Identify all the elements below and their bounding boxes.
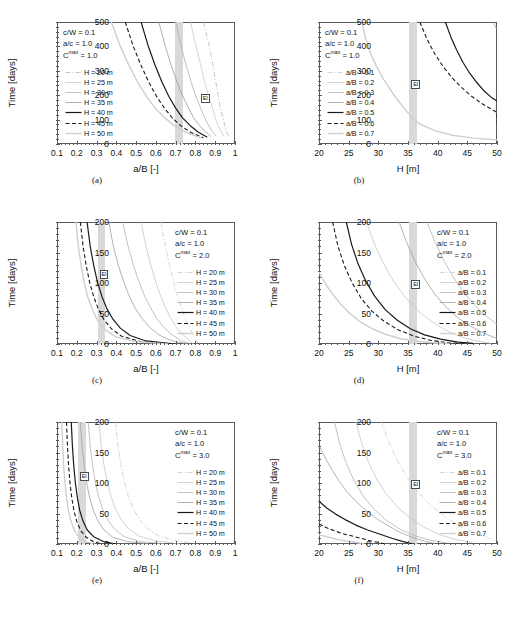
legend-item[interactable]: H = 25 m <box>177 277 225 287</box>
legend-item[interactable]: a/B = 0.3 <box>439 487 486 497</box>
x-tick-minor <box>455 543 456 546</box>
x-tick-minor <box>191 343 192 346</box>
legend-label: H = 30 m <box>196 488 225 497</box>
legend-item[interactable]: H = 45 m <box>177 318 225 328</box>
chart-panel-f: EI20253035404550050100150200H [m]Time [d… <box>261 400 523 600</box>
x-tick-label: 25 <box>344 548 353 558</box>
legend-item[interactable]: H = 20 m <box>177 267 225 277</box>
y-tick-minor <box>318 489 321 490</box>
y-tick-minor <box>56 422 59 423</box>
legend-item[interactable]: H = 30 m <box>65 87 113 97</box>
legend-item[interactable]: a/B = 0.6 <box>327 118 374 128</box>
x-tick-minor <box>73 343 74 346</box>
x-tick-label: 0.1 <box>51 548 63 558</box>
legend-item[interactable]: a/B = 0.4 <box>327 98 374 108</box>
series-curve <box>319 445 435 543</box>
legend-swatch <box>177 520 194 527</box>
x-tick-label: 0.1 <box>51 148 63 158</box>
legend-item[interactable]: a/B = 0.5 <box>439 308 486 318</box>
legend-item[interactable]: H = 25 m <box>65 77 113 87</box>
legend-swatch <box>327 130 344 137</box>
parameter-row: Cmax = 3.0 <box>437 450 472 462</box>
legend-item[interactable]: H = 50 m <box>177 528 225 538</box>
x-tick-minor <box>128 343 129 346</box>
legend-item[interactable]: H = 20 m <box>177 467 225 477</box>
x-tick-label: 0.2 <box>71 148 83 158</box>
x-tick-minor <box>203 343 204 346</box>
legend-item[interactable]: a/B = 0.7 <box>327 128 374 138</box>
legend-item[interactable]: a/B = 0.6 <box>439 318 486 328</box>
x-tick-minor <box>235 543 236 546</box>
legend-item[interactable]: a/B = 0.3 <box>439 287 486 297</box>
legend-item[interactable]: a/B = 0.3 <box>327 87 374 97</box>
x-tick-minor <box>331 343 332 346</box>
legend-item[interactable]: a/B = 0.2 <box>439 277 486 287</box>
legend-item[interactable]: a/B = 0.2 <box>327 77 374 87</box>
x-tick-minor <box>160 543 161 546</box>
legend-item[interactable]: a/B = 0.1 <box>439 267 486 277</box>
legend-label: a/B = 0.7 <box>458 529 486 538</box>
legend-item[interactable]: H = 45 m <box>65 118 113 128</box>
legend-e: H = 20 mH = 25 mH = 30 mH = 35 mH = 40 m… <box>177 467 225 538</box>
x-tick-minor <box>491 143 492 146</box>
y-tick-label: 0 <box>366 339 371 349</box>
legend-item[interactable]: a/B = 0.5 <box>327 108 374 118</box>
legend-item[interactable]: H = 50 m <box>177 328 225 338</box>
y-tick-minor <box>318 326 321 327</box>
legend-item[interactable]: H = 20 m <box>65 67 113 77</box>
y-tick-minor <box>318 277 321 278</box>
x-tick-minor <box>337 343 338 346</box>
legend-item[interactable]: a/B = 0.1 <box>439 467 486 477</box>
legend-item[interactable]: H = 35 m <box>65 98 113 108</box>
legend-item[interactable]: a/B = 0.6 <box>439 518 486 528</box>
y-tick-minor <box>56 32 59 33</box>
legend-item[interactable]: H = 30 m <box>177 487 225 497</box>
legend-label: a/B = 0.7 <box>346 129 374 138</box>
legend-swatch <box>327 89 344 96</box>
legend-item[interactable]: H = 40 m <box>65 108 113 118</box>
legend-label: H = 25 m <box>84 78 113 87</box>
chart-panel-a: EI0.10.20.30.40.50.60.70.80.910100200300… <box>0 0 261 200</box>
x-tick-minor <box>176 343 177 346</box>
x-tick-minor <box>69 143 70 146</box>
legend-item[interactable]: H = 35 m <box>177 298 225 308</box>
legend-item[interactable]: a/B = 0.4 <box>439 498 486 508</box>
legend-item[interactable]: a/B = 0.5 <box>439 508 486 518</box>
x-tick-minor <box>120 343 121 346</box>
legend-item[interactable]: a/B = 0.2 <box>439 477 486 487</box>
y-axis-title: Time [days] <box>268 459 279 508</box>
legend-item[interactable]: a/B = 0.7 <box>439 328 486 338</box>
x-tick-minor <box>148 143 149 146</box>
x-tick-minor <box>85 343 86 346</box>
ei-label: EI <box>411 80 420 89</box>
legend-item[interactable]: H = 50 m <box>65 128 113 138</box>
x-tick-minor <box>461 543 462 546</box>
legend-swatch <box>177 289 194 296</box>
x-tick-minor <box>101 143 102 146</box>
legend-label: a/B = 0.3 <box>458 488 486 497</box>
legend-item[interactable]: H = 35 m <box>177 498 225 508</box>
legend-swatch <box>65 109 82 116</box>
y-tick-label: 0 <box>366 539 371 549</box>
legend-item[interactable]: H = 40 m <box>177 508 225 518</box>
y-tick-label: 50 <box>100 309 109 319</box>
legend-swatch <box>439 269 456 276</box>
y-tick-minor <box>56 483 59 484</box>
legend-item[interactable]: H = 30 m <box>177 287 225 297</box>
legend-item[interactable]: H = 45 m <box>177 518 225 528</box>
x-tick-minor <box>485 143 486 146</box>
legend-item[interactable]: a/B = 0.7 <box>439 528 486 538</box>
x-tick-minor <box>491 543 492 546</box>
y-tick-minor <box>318 307 321 308</box>
legend-item[interactable]: H = 40 m <box>177 308 225 318</box>
x-tick-minor <box>215 343 216 346</box>
x-tick-minor <box>355 343 356 346</box>
chart-panel-b: EI202530354045500100200300400500H [m]Tim… <box>261 0 523 200</box>
legend-item[interactable]: H = 25 m <box>177 477 225 487</box>
legend-item[interactable]: a/B = 0.4 <box>439 298 486 308</box>
legend-item[interactable]: a/B = 0.1 <box>327 67 374 77</box>
y-tick-minor <box>56 81 59 82</box>
legend-label: H = 40 m <box>84 108 113 117</box>
x-tick-minor <box>164 143 165 146</box>
legend-label: H = 20 m <box>196 268 225 277</box>
